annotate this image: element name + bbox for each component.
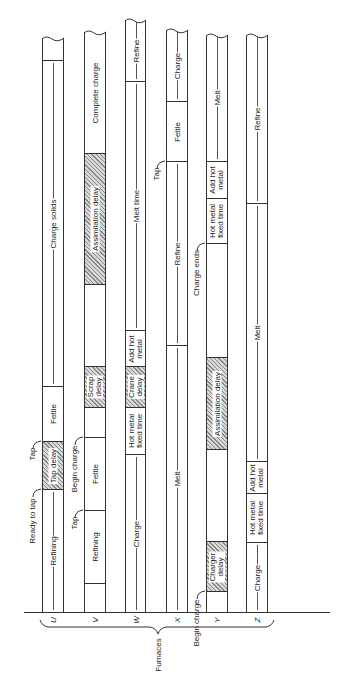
furnaces-brace xyxy=(0,0,342,682)
